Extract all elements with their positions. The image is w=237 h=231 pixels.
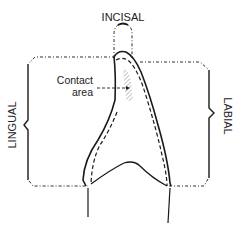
diagram-canvas: INCISAL LINGUAL LABIAL Contact area [0,0,237,231]
lingual-bracket-bottom [29,181,88,186]
incisal-label: INCISAL [102,11,145,23]
cervical-line [91,162,167,186]
contact-label-line2: area [72,86,93,98]
contact-area-hatch [123,68,133,101]
root-labial-line [168,188,170,223]
labial-bracket-top [140,62,208,69]
labial-brace [209,70,214,178]
contact-label-line1: Contact [57,74,93,86]
labial-bracket-bottom [168,179,208,186]
lingual-label: LINGUAL [6,101,18,148]
enamel-line-lingual [91,112,117,184]
incisal-bracket-top [118,24,128,26]
tooth-diagram: INCISAL LINGUAL LABIAL Contact area [0,0,237,231]
tooth-labial-outline [114,52,171,186]
lingual-bracket-top [29,57,115,63]
labial-label: LABIAL [222,97,234,134]
lingual-brace [24,64,28,180]
